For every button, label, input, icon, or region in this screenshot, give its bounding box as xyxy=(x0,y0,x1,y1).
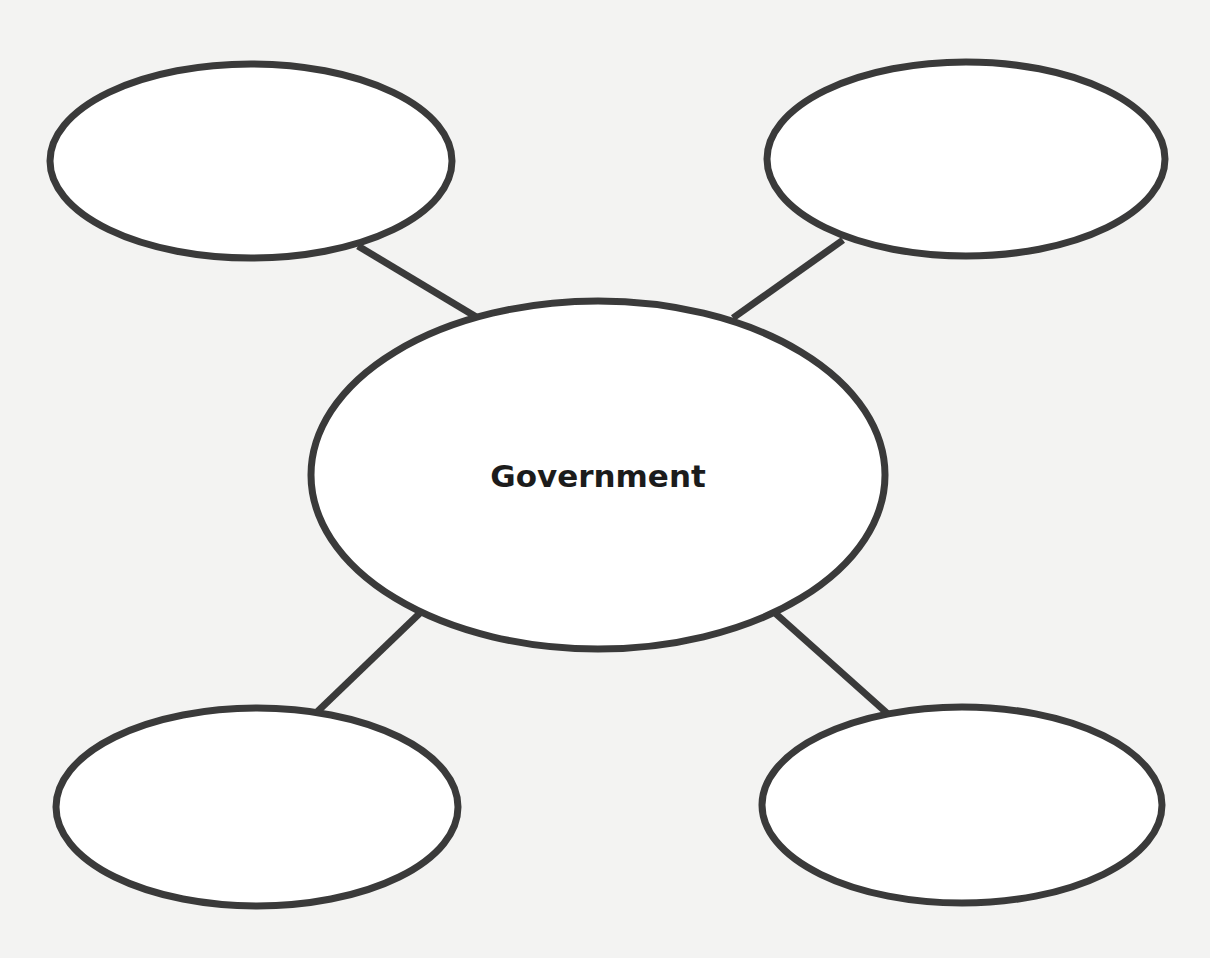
satellite-bottom-left[interactable] xyxy=(56,708,458,906)
satellite-bottom-right[interactable] xyxy=(762,707,1162,903)
center-label: Government xyxy=(308,298,888,652)
satellite-top-left[interactable] xyxy=(50,64,452,258)
concept-web-diagram: Government xyxy=(0,0,1210,958)
satellite-top-right[interactable] xyxy=(767,62,1165,256)
